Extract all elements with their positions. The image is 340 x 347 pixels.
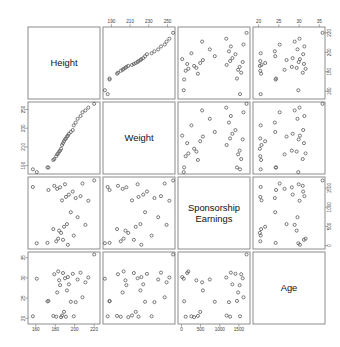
data-point	[301, 157, 304, 160]
scatter-panel-weight-vs-earnings	[178, 102, 250, 174]
data-point	[184, 155, 187, 158]
data-point	[242, 296, 245, 299]
data-point	[225, 276, 228, 279]
data-point	[61, 271, 64, 274]
data-point	[53, 184, 56, 187]
tick-label: 220	[90, 327, 98, 332]
data-point	[187, 67, 190, 70]
panel-frame	[103, 177, 175, 249]
data-point	[76, 117, 79, 120]
data-point	[293, 40, 296, 43]
data-point	[87, 276, 90, 279]
data-point	[235, 299, 238, 302]
data-point	[183, 166, 186, 169]
data-point	[59, 284, 62, 287]
data-point	[259, 52, 262, 55]
data-point	[61, 199, 64, 202]
panel-frame	[178, 102, 250, 174]
data-point	[291, 132, 294, 135]
data-point	[65, 223, 68, 226]
data-point	[225, 63, 228, 66]
data-point	[67, 283, 70, 286]
data-point	[193, 147, 196, 150]
data-point	[116, 184, 119, 187]
data-point	[153, 197, 156, 200]
data-point	[35, 242, 38, 245]
data-point	[132, 271, 135, 274]
data-point	[321, 31, 324, 34]
data-point	[240, 273, 243, 276]
data-point	[159, 195, 162, 198]
diagonal-panel-earnings: SponsorshipEarnings	[178, 177, 250, 249]
data-point	[241, 138, 244, 141]
tick-label: 190	[21, 161, 26, 169]
data-point	[196, 72, 199, 75]
data-point	[321, 179, 324, 182]
tick-label: 35	[22, 255, 27, 261]
data-point	[291, 57, 294, 60]
data-point	[121, 187, 124, 190]
data-point	[125, 186, 128, 189]
variable-label-height: Height	[50, 57, 77, 68]
data-point	[64, 315, 67, 318]
data-point	[159, 271, 162, 274]
data-point	[81, 111, 84, 114]
data-point	[275, 188, 278, 191]
data-point	[79, 271, 82, 274]
diagonal-panel-height: Height	[28, 27, 100, 99]
data-point	[122, 237, 125, 240]
data-point	[125, 284, 128, 287]
tick-label: 1500	[327, 183, 332, 194]
data-point	[31, 185, 34, 188]
data-point	[302, 129, 305, 132]
scatter-panel-height-vs-weight	[103, 27, 175, 99]
data-point	[259, 124, 262, 127]
data-point	[283, 68, 286, 71]
data-point	[258, 147, 261, 150]
scatter-panel-earnings-vs-weight	[103, 177, 175, 249]
data-point	[145, 272, 148, 275]
data-point	[241, 277, 244, 280]
data-point	[136, 183, 139, 186]
data-point	[260, 199, 263, 202]
data-point	[79, 114, 82, 117]
data-point	[274, 130, 277, 133]
axis-height-bottom: 160180200220	[32, 324, 98, 332]
data-point	[303, 195, 306, 198]
data-point	[201, 135, 204, 138]
data-point	[296, 117, 299, 120]
data-point	[259, 155, 262, 158]
data-point	[57, 237, 60, 240]
tick-label: 220	[327, 29, 332, 37]
data-point	[285, 223, 288, 226]
data-point	[47, 188, 50, 191]
data-point	[108, 241, 111, 244]
tick-label: 0	[327, 244, 332, 247]
data-point	[136, 277, 139, 280]
data-point	[259, 93, 262, 96]
tick-label: 210	[126, 19, 134, 24]
data-point	[182, 171, 185, 174]
data-point	[285, 135, 288, 138]
data-point	[81, 296, 84, 299]
data-point	[259, 168, 262, 171]
data-point	[145, 190, 148, 193]
data-point	[181, 134, 184, 137]
data-point	[46, 241, 49, 244]
data-point	[195, 150, 198, 153]
data-point	[145, 53, 148, 56]
data-point	[208, 278, 211, 281]
data-point	[124, 229, 127, 232]
data-point	[274, 241, 277, 244]
scatter-panel-weight-vs-age	[253, 102, 325, 174]
data-point	[159, 45, 162, 48]
data-point	[103, 277, 106, 280]
data-point	[283, 153, 286, 156]
tick-label: 1000	[327, 202, 332, 213]
data-point	[238, 315, 241, 318]
data-point	[264, 61, 267, 64]
scatter-panel-weight-vs-height	[28, 102, 100, 174]
data-point	[303, 45, 306, 48]
data-point	[290, 186, 293, 189]
data-point	[79, 195, 82, 198]
